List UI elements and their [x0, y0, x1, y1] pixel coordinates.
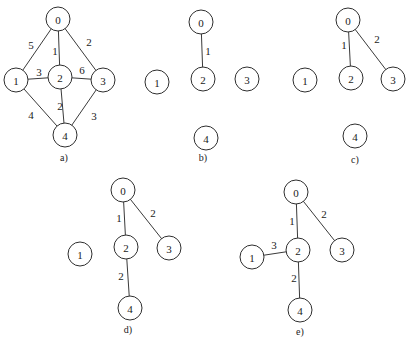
node-3: 3	[157, 236, 181, 260]
node-2: 2	[339, 66, 363, 90]
edge-weight-label: 3	[91, 110, 97, 122]
node-2: 2	[48, 65, 72, 89]
edge-weight-label: 6	[79, 64, 85, 76]
node-label: 3	[166, 243, 172, 255]
node-label: 2	[348, 73, 354, 85]
node-label: 2	[200, 74, 206, 86]
node-3: 3	[235, 67, 259, 91]
node-label: 0	[293, 187, 299, 199]
edge-weight-label: 2	[291, 272, 297, 284]
panel-caption: a)	[60, 152, 68, 164]
edge-weight-label: 5	[28, 39, 34, 51]
edge-weight-label: 2	[57, 100, 63, 112]
node-label: 4	[352, 131, 358, 143]
edge-weight-label: 1	[205, 45, 211, 57]
node-0: 0	[189, 10, 213, 34]
node-label: 1	[154, 77, 160, 89]
node-label: 4	[127, 303, 133, 315]
edge-weight-label: 2	[118, 270, 124, 282]
node-label: 3	[339, 245, 345, 257]
panel-caption: c)	[351, 154, 359, 166]
node-1: 1	[4, 68, 28, 92]
panel-caption: b)	[199, 152, 207, 164]
node-label: 3	[390, 74, 396, 86]
node-2: 2	[114, 235, 138, 259]
edge-weight-label: 3	[271, 239, 277, 251]
panel-d: 12201234d)	[68, 178, 181, 336]
node-label: 0	[345, 15, 351, 27]
node-4: 4	[53, 123, 77, 147]
node-label: 4	[297, 305, 303, 317]
node-label: 2	[295, 245, 301, 257]
node-0: 0	[336, 8, 360, 32]
node-3: 3	[91, 68, 115, 92]
node-label: 3	[244, 74, 250, 86]
node-label: 2	[57, 72, 63, 84]
edge-weight-label: 1	[289, 215, 295, 227]
edge-weight-label: 1	[52, 45, 58, 57]
panel-a: 5123642301234a)	[4, 7, 115, 164]
panel-c: 1201234c)	[293, 8, 405, 166]
edge-weight-label: 2	[374, 33, 380, 45]
panel-b: 101234b)	[145, 10, 259, 164]
node-4: 4	[288, 298, 312, 322]
node-3: 3	[330, 238, 354, 262]
node-3: 3	[381, 67, 405, 91]
node-0: 0	[111, 178, 135, 202]
node-label: 3	[100, 75, 106, 87]
edge-weight-label: 1	[341, 39, 347, 51]
node-label: 4	[203, 133, 209, 145]
panel-caption: e)	[296, 326, 304, 338]
node-4: 4	[194, 126, 218, 150]
node-1: 1	[240, 245, 264, 269]
edge-weight-label: 1	[116, 212, 122, 224]
panel-e: 123201234e)	[240, 180, 354, 338]
edge-weight-label: 2	[86, 36, 92, 48]
node-label: 4	[62, 130, 68, 142]
node-label: 2	[123, 242, 129, 254]
edge-weight-label: 2	[321, 208, 327, 220]
node-label: 0	[198, 17, 204, 29]
mst-diagram: 5123642301234a)101234b)1201234c)12201234…	[0, 0, 412, 338]
node-0: 0	[284, 180, 308, 204]
node-label: 0	[55, 14, 61, 26]
node-label: 1	[249, 252, 255, 264]
node-2: 2	[286, 238, 310, 262]
edge-weight-label: 3	[36, 66, 42, 78]
node-label: 0	[120, 185, 126, 197]
node-4: 4	[343, 124, 367, 148]
node-label: 1	[13, 75, 19, 87]
panel-caption: d)	[124, 324, 132, 336]
node-1: 1	[68, 242, 92, 266]
node-label: 1	[77, 249, 83, 261]
node-4: 4	[118, 296, 142, 320]
node-label: 1	[302, 75, 308, 87]
edge-weight-label: 4	[28, 109, 34, 121]
node-1: 1	[145, 70, 169, 94]
node-2: 2	[191, 67, 215, 91]
edge-weight-label: 2	[150, 207, 156, 219]
node-0: 0	[46, 7, 70, 31]
node-1: 1	[293, 68, 317, 92]
